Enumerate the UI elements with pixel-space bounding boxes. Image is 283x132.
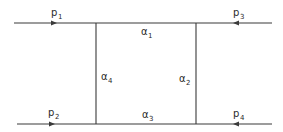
label-p4: p 4 [233,108,245,122]
feynman-box-diagram: p 1 p 2 p 3 p 4 α 1 α 2 α 3 α 4 [0,0,283,132]
label-p1: p 1 [51,7,62,21]
label-alpha1-sub: 1 [148,32,152,40]
label-p3: p 3 [233,7,244,21]
label-p2: p 2 [48,107,59,121]
label-alpha3-sub: 3 [149,115,153,123]
arrow-p3-icon [233,21,239,26]
label-alpha4: α 4 [101,71,113,85]
arrow-p1-icon [51,21,57,26]
arrow-p4-icon [233,122,239,127]
label-p2-base: p [48,107,54,118]
label-alpha4-base: α [101,71,108,82]
label-alpha2: α 2 [179,73,190,87]
label-alpha4-sub: 4 [108,77,113,85]
label-p4-base: p [233,108,239,119]
label-p3-sub: 3 [240,13,244,21]
label-alpha1-base: α [141,26,148,37]
arrow-p2-icon [49,122,55,127]
label-alpha3: α 3 [142,109,153,123]
label-alpha2-sub: 2 [186,79,190,87]
label-alpha3-base: α [142,109,149,120]
label-p3-base: p [233,7,239,18]
label-alpha2-base: α [179,73,186,84]
label-p4-sub: 4 [240,114,245,122]
label-p1-sub: 1 [58,13,62,21]
label-alpha1: α 1 [141,26,152,40]
label-p2-sub: 2 [55,113,59,121]
label-p1-base: p [51,7,57,18]
